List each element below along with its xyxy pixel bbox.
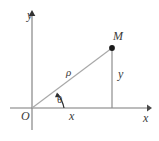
projection-x-label: x — [69, 110, 74, 122]
radius-ray-rho — [32, 48, 112, 108]
radius-rho-label: ρ — [66, 67, 71, 78]
filled-dot-icon — [109, 45, 115, 51]
y-axis-label: y — [27, 9, 32, 21]
angle-theta-label: θ — [57, 94, 62, 105]
projection-y-label: y — [118, 68, 123, 80]
x-axis-label: x — [143, 112, 148, 124]
origin-label: O — [21, 110, 30, 122]
point-m-label: M — [113, 30, 123, 42]
polar-coordinate-figure: y x O M ρ θ x y — [0, 0, 159, 141]
